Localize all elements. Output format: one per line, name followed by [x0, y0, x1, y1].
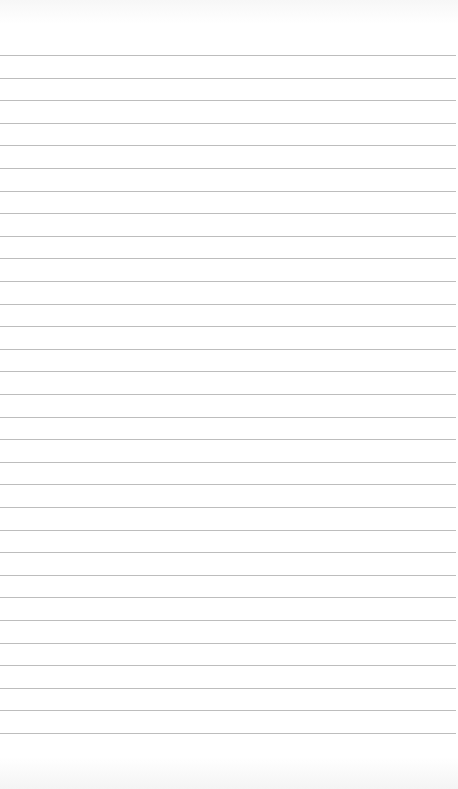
ruled-line	[0, 484, 456, 485]
ruled-line	[0, 620, 456, 621]
ruled-line	[0, 530, 456, 531]
ruled-line	[0, 439, 456, 440]
ruled-line	[0, 552, 456, 553]
ruled-paper-sheet	[0, 0, 458, 789]
ruled-line	[0, 462, 456, 463]
ruled-line	[0, 78, 456, 79]
ruled-line	[0, 213, 456, 214]
ruled-line	[0, 507, 456, 508]
ruled-line	[0, 304, 456, 305]
ruled-line	[0, 258, 456, 259]
ruled-line	[0, 597, 456, 598]
ruled-line	[0, 349, 456, 350]
ruled-line	[0, 191, 456, 192]
ruled-line	[0, 733, 456, 734]
ruled-line	[0, 281, 456, 282]
ruled-line	[0, 710, 456, 711]
ruled-line	[0, 575, 456, 576]
ruled-line	[0, 665, 456, 666]
ruled-line	[0, 643, 456, 644]
ruled-line	[0, 123, 456, 124]
ruled-line	[0, 394, 456, 395]
ruled-line	[0, 145, 456, 146]
ruled-line	[0, 100, 456, 101]
ruled-line	[0, 55, 456, 56]
ruled-line	[0, 371, 456, 372]
ruled-line	[0, 168, 456, 169]
ruled-line	[0, 236, 456, 237]
ruled-line	[0, 417, 456, 418]
ruled-line	[0, 688, 456, 689]
ruled-line	[0, 326, 456, 327]
